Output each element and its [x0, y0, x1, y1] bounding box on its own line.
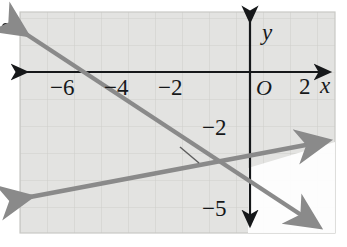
x-tick-label-neg4: −4	[104, 75, 129, 100]
coordinate-plane-svg: −6 −4 −2 2 −2 −5 O y x	[0, 0, 347, 247]
graph-figure: −6 −4 −2 2 −2 −5 O y x	[0, 0, 347, 247]
y-tick-label-neg2: −2	[202, 115, 226, 140]
bullet-marker-dot	[2, 23, 10, 31]
x-tick-label-neg2: −2	[158, 75, 182, 100]
y-tick-label-neg5: −5	[202, 196, 226, 221]
x-tick-label-2: 2	[299, 74, 311, 99]
x-tick-label-neg6: −6	[50, 75, 74, 100]
x-axis-label: x	[319, 73, 331, 98]
origin-label: O	[256, 75, 272, 100]
y-axis-label: y	[260, 20, 273, 45]
